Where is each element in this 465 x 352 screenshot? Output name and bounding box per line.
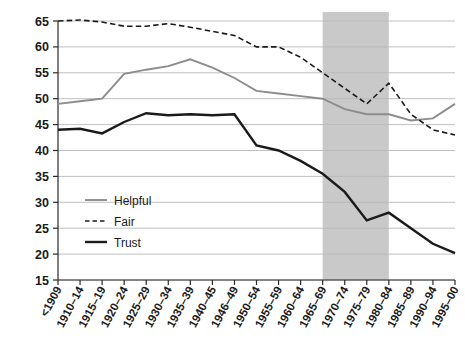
series-line-trust — [58, 113, 455, 253]
series-line-helpful — [58, 59, 455, 120]
y-tick-label: 50 — [35, 92, 49, 106]
series-line-fair — [58, 20, 455, 135]
x-axis — [58, 280, 455, 285]
legend-label-helpful: Helpful — [114, 194, 151, 208]
y-tick-label: 20 — [35, 248, 49, 262]
x-tick-labels: <19091910–141915–191920–241925–291930–34… — [38, 284, 461, 330]
y-axis — [53, 21, 58, 280]
line-chart: 1520253035404550556065 <19091910–141915–… — [0, 0, 465, 352]
legend-label-trust: Trust — [114, 236, 142, 250]
y-tick-label: 40 — [35, 144, 49, 158]
shaded-band-layer — [323, 12, 389, 280]
legend-label-fair: Fair — [114, 215, 135, 229]
y-tick-label: 15 — [35, 274, 49, 288]
highlight-band — [323, 12, 389, 280]
chart-canvas: 1520253035404550556065 <19091910–141915–… — [0, 0, 465, 352]
y-tick-label: 60 — [35, 40, 49, 54]
y-tick-label: 35 — [35, 170, 49, 184]
y-tick-label: 55 — [35, 66, 49, 80]
y-tick-label: 25 — [35, 222, 49, 236]
y-tick-label: 65 — [35, 15, 49, 29]
y-tick-label: 30 — [35, 196, 49, 210]
y-tick-label: 45 — [35, 118, 49, 132]
y-tick-labels: 1520253035404550556065 — [35, 15, 49, 288]
